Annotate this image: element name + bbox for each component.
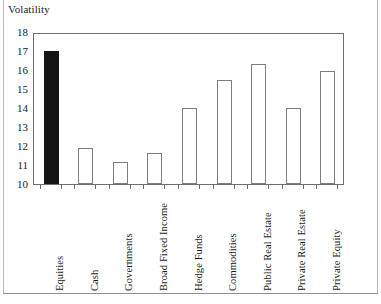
x-axis-tick-mark	[337, 185, 338, 189]
page-frame-bottom-rule	[3, 293, 378, 294]
x-axis-tick-mark	[178, 185, 179, 189]
x-axis-tick-mark	[213, 185, 214, 189]
x-axis-category-label: Hedge Funds	[193, 234, 204, 291]
x-axis-tick-mark	[95, 185, 96, 189]
x-axis-tick-mark	[130, 185, 131, 189]
x-axis-category-label: Governments	[123, 233, 134, 291]
y-axis-title: Volatility	[8, 3, 50, 15]
x-axis-tick-mark	[74, 185, 75, 189]
bar	[147, 153, 162, 184]
bar	[251, 64, 266, 184]
y-axis-tick-label: 12	[4, 141, 28, 152]
plot-area	[33, 33, 344, 185]
y-axis-tick-label: 11	[4, 160, 28, 171]
x-axis-tick-mark	[164, 185, 165, 189]
bar	[78, 148, 93, 184]
x-axis-tick-mark	[234, 185, 235, 189]
y-axis-tick-label: 14	[4, 103, 28, 114]
page-frame-right-rule	[377, 0, 378, 294]
bar	[217, 80, 232, 185]
x-axis-tick-mark	[143, 185, 144, 189]
bar	[113, 162, 128, 184]
x-axis-tick-mark	[199, 185, 200, 189]
x-axis-tick-mark	[282, 185, 283, 189]
x-axis-tick-mark	[303, 185, 304, 189]
x-axis-category-label: Public Real Estate	[262, 212, 273, 291]
x-axis-tick-mark	[316, 185, 317, 189]
x-axis-category-label: Cash	[89, 270, 100, 291]
x-axis-category-label: Broad Fixed Income	[158, 203, 169, 291]
y-axis-tick-label: 15	[4, 84, 28, 95]
chart-page: Volatility 181716151413121110 EquitiesCa…	[0, 0, 381, 304]
y-axis-tick-label: 18	[4, 27, 28, 38]
y-axis-tick-label: 10	[4, 179, 28, 190]
y-axis-tick-label: 13	[4, 122, 28, 133]
bar	[182, 108, 197, 184]
y-axis-tick-label: 17	[4, 46, 28, 57]
x-axis-tick-mark	[247, 185, 248, 189]
x-axis-category-label: Equities	[54, 256, 65, 291]
x-axis-category-label: Commodities	[227, 233, 238, 291]
bar	[320, 71, 335, 184]
y-axis-tick-label: 16	[4, 65, 28, 76]
x-axis-tick-mark	[268, 185, 269, 189]
x-axis-tick-mark	[61, 185, 62, 189]
x-axis-tick-mark	[40, 185, 41, 189]
x-axis-tick-mark	[109, 185, 110, 189]
bar	[286, 108, 301, 184]
x-axis-category-label: Private Real Estate	[296, 209, 307, 291]
bar	[44, 51, 59, 184]
x-axis-category-label: Private Equity	[331, 229, 342, 291]
